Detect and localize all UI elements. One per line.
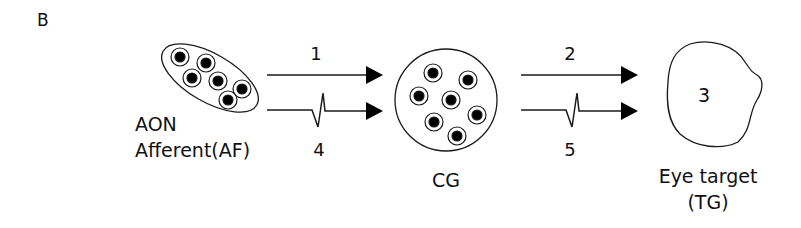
cg-cells [410, 64, 486, 145]
neuron-cell-icon [459, 71, 477, 89]
diagram-canvas: B AON Afferent(AF) 1 4 [0, 0, 801, 228]
neuron-cell-icon [442, 91, 460, 109]
neuron-cell-icon [171, 48, 189, 66]
neuron-cell-icon [183, 69, 201, 87]
neuron-cell-icon [425, 113, 443, 131]
panel-label: B [37, 10, 49, 30]
arrow-1-label: 1 [310, 43, 321, 64]
neuron-cell-icon [468, 106, 486, 124]
arrowhead-icon [366, 66, 383, 84]
arrow-1 [267, 66, 383, 84]
eye-target-node [667, 42, 762, 147]
aon-label-line1: AON [135, 113, 177, 135]
neuron-cell-icon [448, 127, 466, 145]
neuron-cell-icon [424, 64, 442, 82]
aon-cells [171, 48, 251, 109]
neuron-cell-icon [219, 91, 237, 109]
cg-node [395, 49, 497, 151]
eye-target-outline [667, 42, 762, 147]
arrow-4-label: 4 [313, 139, 324, 160]
cg-label: CG [432, 169, 460, 191]
aon-label-line2: Afferent(AF) [135, 139, 250, 161]
arrow-2 [521, 66, 638, 84]
aon-node [151, 30, 269, 126]
target-label-line1: Eye target [659, 165, 758, 187]
neuron-cell-icon [410, 87, 428, 105]
arrow-5 [521, 93, 638, 127]
target-number: 3 [698, 84, 710, 106]
arrow-2-label: 2 [564, 43, 575, 64]
target-label-line2: (TG) [687, 191, 728, 213]
neuron-cell-icon [209, 72, 227, 90]
arrow-4 [267, 93, 383, 127]
neuron-cell-icon [197, 54, 215, 72]
arrowhead-icon [366, 102, 383, 120]
arrowhead-icon [621, 66, 638, 84]
arrow-5-label: 5 [564, 139, 575, 160]
arrowhead-icon [621, 102, 638, 120]
